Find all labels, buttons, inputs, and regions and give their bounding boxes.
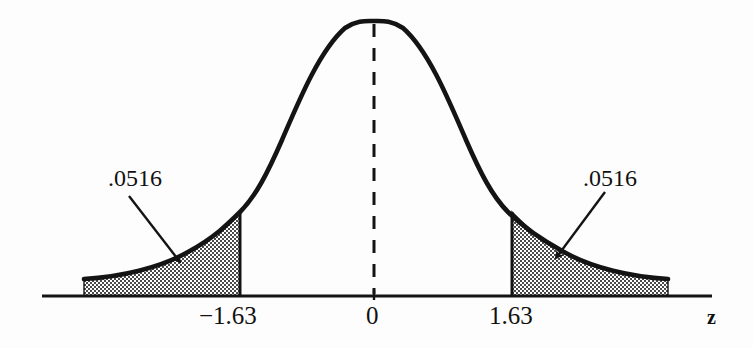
tick-label-positive: 1.63	[489, 303, 533, 328]
tick-label-negative: −1.63	[199, 303, 257, 328]
right-tail-area-label: .0516	[583, 166, 637, 190]
x-axis-label: z	[707, 307, 716, 327]
normal-distribution-figure: .0516 .0516 −1.63 0 1.63 z	[0, 0, 753, 348]
left-annotation-leader	[129, 196, 180, 262]
left-tail-area-label: .0516	[108, 166, 162, 190]
tick-label-zero: 0	[366, 303, 379, 328]
normal-curve	[84, 21, 668, 279]
right-annotation-leader	[556, 192, 605, 258]
right-tail-region	[508, 205, 673, 300]
left-tail-region	[80, 205, 245, 300]
